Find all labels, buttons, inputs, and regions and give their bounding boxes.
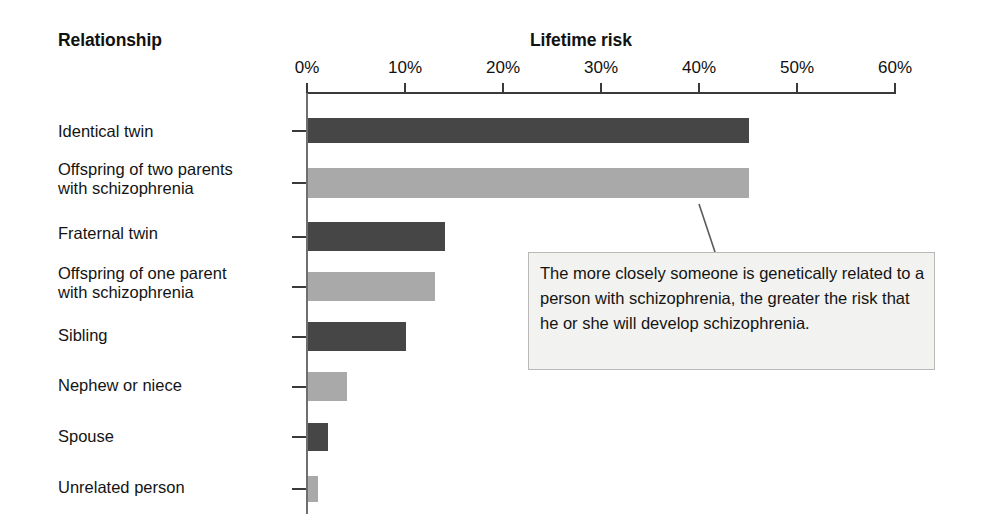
y-tick-3 bbox=[292, 286, 306, 288]
x-tick-label-40: 40% bbox=[682, 58, 716, 78]
bar bbox=[308, 322, 406, 351]
y-tick-5 bbox=[292, 386, 306, 388]
y-tick-0 bbox=[292, 130, 306, 132]
x-tick-10 bbox=[404, 83, 406, 93]
x-tick-50 bbox=[796, 83, 798, 93]
row-label: Offspring of one parent with schizophren… bbox=[58, 264, 226, 302]
y-tick-6 bbox=[292, 436, 306, 438]
y-tick-4 bbox=[292, 336, 306, 338]
bar bbox=[308, 476, 318, 502]
bar bbox=[308, 222, 445, 251]
row-label: Sibling bbox=[58, 326, 108, 345]
row-label: Offspring of two parents with schizophre… bbox=[58, 160, 233, 198]
bar bbox=[308, 168, 749, 198]
y-tick-2 bbox=[292, 236, 306, 238]
x-tick-label-20: 20% bbox=[486, 58, 520, 78]
x-axis-line bbox=[306, 92, 896, 94]
x-tick-label-60: 60% bbox=[878, 58, 912, 78]
callout-leader-line bbox=[690, 200, 730, 256]
x-tick-label-50: 50% bbox=[780, 58, 814, 78]
bar bbox=[308, 118, 749, 143]
bar bbox=[308, 272, 435, 301]
x-tick-0 bbox=[306, 83, 308, 93]
row-label: Fraternal twin bbox=[58, 224, 158, 243]
lifetime-risk-axis-title: Lifetime risk bbox=[530, 30, 632, 51]
row-label: Unrelated person bbox=[58, 478, 185, 497]
bar bbox=[308, 423, 328, 451]
callout-text: The more closely someone is genetically … bbox=[540, 261, 930, 336]
lifetime-risk-bar-chart: Relationship Lifetime risk 0%10%20%30%40… bbox=[0, 0, 988, 530]
y-tick-7 bbox=[292, 488, 306, 490]
y-tick-1 bbox=[292, 182, 306, 184]
x-tick-label-0: 0% bbox=[295, 58, 320, 78]
x-tick-40 bbox=[698, 83, 700, 93]
x-tick-20 bbox=[502, 83, 504, 93]
x-tick-60 bbox=[894, 83, 896, 93]
row-label: Nephew or niece bbox=[58, 376, 182, 395]
x-tick-label-30: 30% bbox=[584, 58, 618, 78]
row-label: Identical twin bbox=[58, 122, 153, 141]
x-tick-label-10: 10% bbox=[388, 58, 422, 78]
relationship-column-header: Relationship bbox=[58, 30, 162, 51]
x-tick-30 bbox=[600, 83, 602, 93]
row-label: Spouse bbox=[58, 427, 114, 446]
bar bbox=[308, 372, 347, 401]
